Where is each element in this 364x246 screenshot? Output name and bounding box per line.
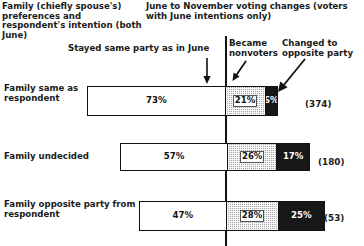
segment-became-nonvoters: 21% [225, 87, 265, 115]
segment-value: 57% [164, 152, 185, 161]
segment-value: 73% [146, 96, 167, 105]
segment-became-nonvoters: 26% [227, 144, 276, 170]
row-label-family-opposite: Family opposite party from respondent [4, 199, 136, 220]
segment-changed-opposite-party: 6% [265, 87, 277, 115]
segment-stayed-same-party: 47% [140, 202, 226, 230]
row-count-family-same: (374) [305, 99, 331, 109]
caption-right: June to November voting changes (voters … [146, 2, 362, 21]
segment-changed-opposite-party: 25% [278, 202, 325, 230]
segment-value: 28% [240, 210, 265, 221]
segment-stayed-same-party: 57% [121, 144, 227, 170]
legend-label-changed-opposite-party: Changed to opposite party [282, 39, 356, 58]
segment-value: 47% [172, 211, 193, 220]
row-count-family-undecided: (180) [318, 157, 344, 167]
segment-changed-opposite-party: 17% [276, 144, 309, 170]
segment-value: 25% [291, 211, 312, 220]
arrow-down-icon [200, 58, 214, 84]
table-row: 57% 26% 17% [120, 143, 310, 171]
row-count-family-opposite: (53) [324, 213, 344, 223]
legend-label-stayed-same-party: Stayed same party as in June [68, 44, 209, 54]
table-row: 73% 21% 6% [87, 86, 278, 116]
row-label-family-undecided: Family undecided [4, 151, 116, 161]
arrow-down-left-icon [273, 58, 307, 94]
segment-value: 17% [283, 152, 304, 161]
segment-became-nonvoters: 28% [226, 202, 278, 230]
segment-value: 6% [265, 96, 277, 105]
row-label-family-same: Family same as respondent [4, 83, 88, 104]
segment-value: 21% [233, 95, 258, 106]
table-row: 47% 28% 25% [139, 201, 325, 231]
stacked-bar-chart: Family (chiefly spouse's) preferences an… [0, 0, 364, 246]
segment-value: 26% [240, 151, 265, 162]
caption-left: Family (chiefly spouse's) preferences an… [2, 2, 142, 41]
segment-stayed-same-party: 73% [88, 87, 225, 115]
arrow-down-left-icon [230, 60, 248, 82]
legend-label-became-nonvoters: Became nonvoters [229, 39, 277, 58]
